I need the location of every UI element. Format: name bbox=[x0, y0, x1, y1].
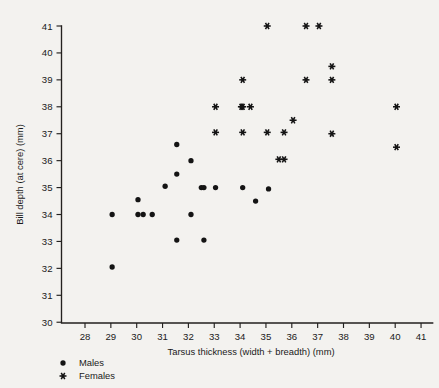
data-point-female bbox=[303, 23, 310, 29]
data-point-female bbox=[328, 131, 335, 137]
y-tick-label: 33 bbox=[42, 236, 53, 247]
series-males bbox=[109, 142, 271, 270]
data-point-female bbox=[393, 144, 400, 150]
data-point-male bbox=[174, 142, 179, 147]
data-point-male bbox=[135, 212, 140, 217]
chart-legend: MalesFemales bbox=[60, 357, 116, 381]
data-point-male bbox=[188, 212, 193, 217]
x-tick-label: 36 bbox=[286, 331, 297, 342]
data-point-female bbox=[264, 129, 271, 135]
data-point-female bbox=[315, 23, 322, 29]
data-point-male bbox=[162, 184, 167, 189]
y-tick-label: 30 bbox=[42, 317, 53, 328]
x-tick-label: 30 bbox=[131, 331, 142, 342]
data-point-female bbox=[290, 117, 297, 123]
x-tick-label: 39 bbox=[364, 331, 375, 342]
data-point-female bbox=[281, 129, 288, 135]
data-point-female bbox=[247, 104, 254, 110]
x-tick-label: 31 bbox=[157, 331, 168, 342]
y-axis-title: Bill depth (at cere) (mm) bbox=[14, 124, 25, 225]
legend-item-females: Females bbox=[60, 370, 116, 381]
legend-label: Males bbox=[79, 357, 104, 368]
chart-canvas: 303132333435363738394041 282930313233343… bbox=[0, 0, 439, 388]
data-point-male bbox=[240, 185, 245, 190]
data-point-male bbox=[201, 237, 206, 242]
x-tick-label: 29 bbox=[106, 331, 117, 342]
data-point-female bbox=[212, 129, 219, 135]
y-tick-label: 39 bbox=[42, 74, 53, 85]
data-point-male bbox=[213, 185, 218, 190]
x-tick-label: 28 bbox=[80, 331, 91, 342]
data-point-female bbox=[281, 156, 288, 162]
x-tick-label: 33 bbox=[209, 331, 220, 342]
data-point-male bbox=[150, 212, 155, 217]
y-tick-label: 41 bbox=[42, 21, 53, 32]
x-tick-label: 41 bbox=[416, 331, 427, 342]
x-tick-label: 35 bbox=[261, 331, 272, 342]
data-point-male bbox=[135, 197, 140, 202]
y-tick-label: 31 bbox=[42, 290, 53, 301]
x-tick-label: 38 bbox=[338, 331, 349, 342]
y-tick-label: 34 bbox=[42, 209, 53, 220]
y-tick-label: 32 bbox=[42, 263, 53, 274]
legend-item-males: Males bbox=[60, 357, 104, 368]
data-point-female bbox=[239, 129, 246, 135]
x-tick-label: 37 bbox=[312, 331, 323, 342]
x-tick-label: 32 bbox=[183, 331, 194, 342]
legend-circle-icon bbox=[60, 360, 65, 365]
data-point-male bbox=[174, 171, 179, 176]
data-point-female bbox=[328, 63, 335, 69]
data-point-male bbox=[266, 186, 271, 191]
data-points bbox=[109, 23, 400, 270]
y-tick-label: 35 bbox=[42, 182, 53, 193]
data-point-male bbox=[109, 212, 114, 217]
data-point-female bbox=[328, 77, 335, 83]
legend-asterisk-icon bbox=[60, 373, 67, 379]
y-tick-label: 37 bbox=[42, 128, 53, 139]
x-tick-label: 34 bbox=[235, 331, 246, 342]
y-tick-label: 36 bbox=[42, 155, 53, 166]
data-point-female bbox=[264, 23, 271, 29]
data-point-male bbox=[109, 264, 114, 269]
data-point-male bbox=[253, 198, 258, 203]
y-tick-label: 40 bbox=[42, 47, 53, 58]
x-axis-ticks: 2829303132333435363738394041 bbox=[80, 323, 427, 342]
scatter-plot-figure: 303132333435363738394041 282930313233343… bbox=[0, 0, 439, 388]
x-tick-label: 40 bbox=[390, 331, 401, 342]
data-point-male bbox=[188, 158, 193, 163]
x-axis-title: Tarsus thickness (width + breadth) (mm) bbox=[168, 346, 335, 357]
y-axis-ticks: 303132333435363738394041 bbox=[42, 21, 62, 328]
legend-label: Females bbox=[79, 370, 115, 381]
series-females bbox=[212, 23, 400, 162]
data-point-male bbox=[201, 185, 206, 190]
data-point-female bbox=[393, 104, 400, 110]
axes bbox=[62, 26, 433, 323]
data-point-female bbox=[239, 77, 246, 83]
data-point-male bbox=[141, 212, 146, 217]
y-tick-label: 38 bbox=[42, 101, 53, 112]
data-point-male bbox=[174, 237, 179, 242]
data-point-female bbox=[212, 104, 219, 110]
data-point-female bbox=[303, 77, 310, 83]
